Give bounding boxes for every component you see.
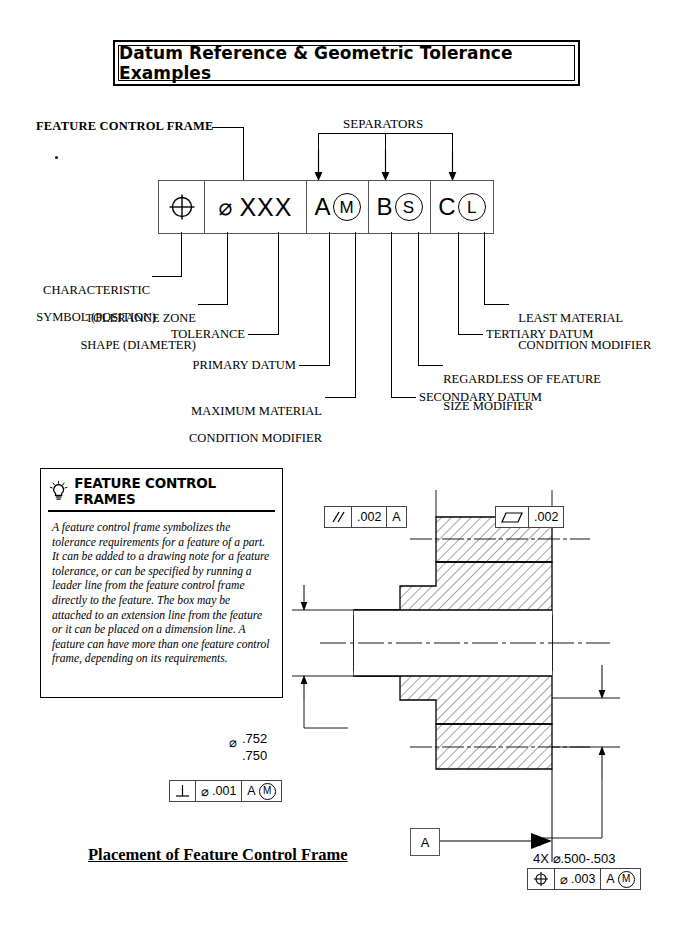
- callout-tolerance-zone-shape: TOLERANCE ZONE SHAPE (DIAMETER): [60, 298, 196, 352]
- leader-tolerance-zone: [227, 232, 228, 304]
- fcf-position-value: .003: [571, 872, 595, 886]
- bottom-section-title: Placement of Feature Control Frame: [88, 845, 348, 865]
- fcf-perpendicularity-tolerance: ⌀ .001: [196, 781, 242, 801]
- fcf-cell-primary-datum: A M: [307, 181, 369, 233]
- position-icon: [167, 192, 197, 222]
- leader-mmc: [355, 232, 356, 397]
- primary-datum-letter: A: [314, 193, 330, 221]
- mmc-modifier-icon: M: [333, 193, 361, 221]
- rfs-modifier-icon: S: [395, 193, 423, 221]
- part-cross-section-drawing: [290, 490, 687, 890]
- info-box-heading: FEATURE CONTROL FRAMES: [74, 475, 274, 507]
- leader-characteristic-h: [152, 276, 182, 277]
- diameter-dimension-lower: .750: [242, 748, 267, 763]
- leader-primary-datum-h: [299, 365, 330, 366]
- secondary-datum-letter: B: [376, 193, 392, 221]
- leader-secondary-datum: [391, 232, 392, 397]
- flatness-icon: [501, 511, 523, 524]
- leader-tertiary-datum-h: [458, 334, 483, 335]
- page-title: Datum Reference & Geometric Tolerance Ex…: [119, 43, 574, 83]
- fcf-position-datum-letter: A: [606, 872, 614, 886]
- callout-regardless-of-feature-size-modifier: REGARDLESS OF FEATURE SIZE MODIFIER: [437, 359, 601, 413]
- lmc-modifier-icon: L: [458, 193, 486, 221]
- feature-control-frame-example: ⌀ XXX A M B S C L: [158, 180, 494, 234]
- datum-feature-letter: A: [421, 835, 430, 850]
- fcf-perpendicularity-datum-letter: A: [247, 784, 255, 798]
- tertiary-datum-letter: C: [438, 193, 455, 221]
- leader-lmc: [484, 232, 485, 304]
- fcf-position-tolerance: ⌀ .003: [555, 869, 601, 889]
- fcf-perpendicularity-value: .001: [212, 784, 236, 798]
- position-icon: [533, 871, 549, 887]
- leader-tolerance-zone-h: [198, 304, 228, 305]
- page-title-inner-border: Datum Reference & Geometric Tolerance Ex…: [118, 45, 575, 81]
- diameter-dimension-symbol: ⌀: [229, 735, 237, 750]
- separator-arrow-3: [445, 150, 460, 182]
- parallelism-icon: [330, 510, 346, 524]
- diameter-dimension-upper: .752: [242, 731, 267, 746]
- hole-quantity-note: 4X ⌀.500-.503: [533, 851, 615, 866]
- callout-least-material-condition-modifier: LEAST MATERIAL CONDITION MODIFIER: [512, 298, 651, 352]
- fcf-cell-secondary-datum: B S: [369, 181, 431, 233]
- callout-tolerance: TOLERANCE: [120, 328, 245, 342]
- leader-lmc-h: [484, 304, 509, 305]
- leader-primary-datum: [329, 232, 330, 365]
- fcf-perpendicularity: ⌀ .001 A M: [169, 780, 282, 802]
- info-box-header: FEATURE CONTROL FRAMES: [41, 469, 282, 510]
- leader-secondary-datum-h: [391, 397, 416, 398]
- leader-rfs: [418, 232, 419, 365]
- fcf-parallelism-symbol-cell: [325, 507, 352, 527]
- fcf-parallelism-datum: A: [387, 507, 405, 527]
- leader-tolerance-h: [248, 334, 279, 335]
- info-box-feature-control-frames: FEATURE CONTROL FRAMES A feature control…: [40, 468, 283, 698]
- fcf-position-diameter-icon: ⌀: [560, 872, 568, 887]
- fcf-perpendicularity-diameter-icon: ⌀: [201, 784, 209, 799]
- fcf-flatness: .002: [495, 506, 564, 528]
- leader-tolerance: [278, 232, 279, 334]
- leader-characteristic: [181, 232, 182, 276]
- fcf-cell-tertiary-datum: C L: [431, 181, 493, 233]
- fcf-position-mmc-icon: M: [618, 871, 635, 888]
- leader-fcf-horizontal: [212, 127, 244, 128]
- leader-tertiary-datum: [458, 232, 459, 334]
- datum-feature-symbol-a: A: [410, 828, 440, 856]
- fcf-parallelism: .002 A: [324, 506, 407, 528]
- fcf-perpendicularity-datum: A M: [242, 781, 280, 801]
- perpendicularity-icon: [175, 784, 190, 798]
- callout-maximum-material-condition-modifier: MAXIMUM MATERIAL CONDITION MODIFIER: [160, 391, 322, 445]
- label-feature-control-frame: FEATURE CONTROL FRAME: [36, 120, 214, 134]
- fcf-tolerance-value: XXX: [239, 193, 292, 222]
- fcf-position-datum: A M: [601, 869, 639, 889]
- fcf-cell-characteristic-symbol: [159, 181, 205, 233]
- fcf-position: ⌀ .003 A M: [527, 868, 641, 890]
- fcf-flatness-tolerance: .002: [529, 507, 563, 527]
- fcf-cell-tolerance: ⌀ XXX: [205, 181, 307, 233]
- page-title-banner: Datum Reference & Geometric Tolerance Ex…: [113, 40, 580, 86]
- info-box-body: A feature control frame symbolizes the t…: [41, 512, 282, 667]
- separator-arrow-1: [311, 150, 326, 182]
- separator-arrow-2: [378, 150, 393, 182]
- fcf-parallelism-tolerance: .002: [352, 507, 387, 527]
- fcf-flatness-symbol-cell: [496, 507, 529, 527]
- lightbulb-icon: [49, 480, 68, 502]
- separator-arrow-0: [244, 150, 259, 182]
- fcf-perpendicularity-symbol-cell: [170, 781, 196, 801]
- fcf-position-symbol-cell: [528, 869, 555, 889]
- diameter-icon: ⌀: [219, 194, 233, 220]
- leader-mmc-h: [325, 397, 356, 398]
- fcf-perpendicularity-mmc-icon: M: [259, 783, 276, 800]
- callout-primary-datum: PRIMARY DATUM: [160, 359, 296, 373]
- stray-dot-artifact: [55, 156, 58, 159]
- label-separators: SEPARATORS: [343, 117, 423, 131]
